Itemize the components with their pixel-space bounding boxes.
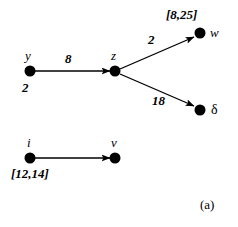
node-y (25, 66, 36, 77)
node-w (195, 28, 206, 39)
node-v (110, 153, 121, 164)
figure-caption: (a) (200, 198, 214, 211)
edge-weight-y-z: 8 (65, 52, 72, 65)
edge-z-w (120, 37, 194, 69)
edge-weight-z-delta: 18 (152, 94, 165, 107)
node-i (25, 153, 36, 164)
node-label-z: z (111, 49, 116, 62)
value-label-y: 2 (22, 81, 29, 94)
graph-figure: y z w δ i v 8 2 18 [8,25] 2 [12,14] (a) (0, 0, 238, 227)
node-label-y: y (25, 49, 31, 62)
node-label-delta: δ (211, 103, 218, 117)
node-label-i: i (27, 136, 31, 149)
graph-canvas (0, 0, 238, 227)
node-label-v: v (111, 136, 117, 149)
node-label-w: w (210, 26, 219, 39)
node-delta (195, 105, 206, 116)
interval-label-w: [8,25] (166, 8, 197, 21)
edge-weight-z-w: 2 (148, 33, 155, 46)
node-z (110, 66, 121, 77)
interval-label-i-v: [12,14] (11, 167, 49, 180)
